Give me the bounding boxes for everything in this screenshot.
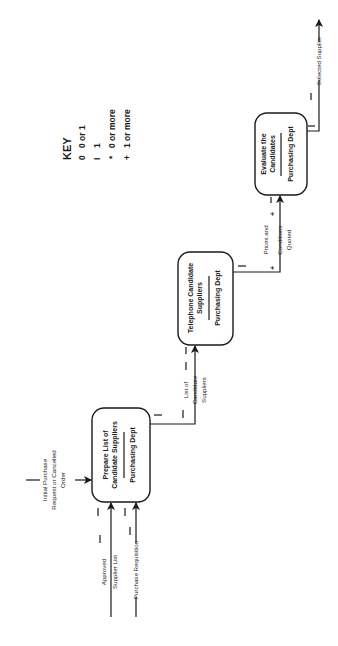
flow-label-line2: Conditions bbox=[276, 225, 283, 254]
process-dept: Purchasing Dept bbox=[287, 126, 295, 182]
process-title-line2: Candidate Suppliers bbox=[111, 421, 119, 489]
flow-label: Purchase Requisition bbox=[132, 540, 139, 599]
process-title-line1: Telephone Candidate bbox=[187, 263, 195, 333]
flow-label-line3: Suppliers bbox=[200, 377, 207, 403]
flow-label-line3: Quoted bbox=[285, 229, 292, 250]
process-telephone-suppliers[interactable]: Telephone Candidate Suppliers Purchasing… bbox=[178, 252, 233, 345]
flow-label-line2: Candidate bbox=[191, 375, 198, 404]
legend-key: KEY 0 0 or 1 I 1 * 0 or more + 1 or more bbox=[61, 109, 132, 160]
key-label-0: 0 or 1 bbox=[77, 125, 87, 148]
key-symbol-0: 0 bbox=[77, 155, 87, 160]
key-label-3: 1 or more bbox=[122, 109, 132, 148]
process-dept: Purchasing Dept bbox=[129, 427, 137, 483]
process-title-line2: Candidates bbox=[269, 135, 276, 173]
flow-approved-supplier-list: Approved Supplier List bbox=[98, 503, 118, 617]
key-symbol-3: + bbox=[122, 155, 132, 160]
flow-label-line1: List of bbox=[182, 381, 189, 398]
key-label-1: 1 bbox=[92, 143, 102, 148]
flow-prices-conditions: + + Prices and Conditions Quoted bbox=[233, 196, 292, 272]
flow-label-line1: Prices and bbox=[262, 225, 269, 255]
process-flow-diagram: KEY 0 0 or 1 I 1 * 0 or more + 1 or more… bbox=[0, 0, 338, 646]
flow-initial-purchase: Initial Purchase Request or Cancelled Or… bbox=[26, 450, 91, 510]
key-label-2: 0 or more bbox=[107, 109, 117, 148]
key-title: KEY bbox=[61, 137, 73, 160]
flow-selected-supplier: Selected Supplier bbox=[307, 20, 322, 131]
flow-label-line1: Approved bbox=[100, 558, 107, 585]
process-title-line2: Suppliers bbox=[196, 282, 204, 314]
process-evaluate-candidates[interactable]: Evaluate the Candidates Purchasing Dept bbox=[255, 113, 307, 195]
arrow-up-icon bbox=[233, 196, 280, 272]
process-dept: Purchasing Dept bbox=[214, 270, 222, 326]
flow-line bbox=[307, 80, 319, 131]
flow-label-line2: Request or Cancelled bbox=[50, 450, 57, 510]
cardinality-many-mark: + bbox=[269, 266, 276, 270]
flow-label-line3: Order bbox=[59, 472, 66, 488]
flow-label-line1: Initial Purchase bbox=[41, 458, 48, 501]
key-symbol-1: I bbox=[92, 158, 102, 160]
process-title-line1: Prepare List of bbox=[102, 430, 110, 480]
flow-label-line2: Supplier List bbox=[111, 555, 118, 589]
process-box[interactable] bbox=[92, 408, 150, 502]
flow-label: Selected Supplier bbox=[315, 37, 322, 86]
cardinality-many-mark: + bbox=[269, 212, 276, 216]
process-title-line1: Evaluate the bbox=[260, 133, 267, 174]
process-prepare-list[interactable]: Prepare List of Candidate Suppliers Purc… bbox=[92, 408, 150, 502]
flow-purchase-requisition: Purchase Requisition bbox=[125, 503, 139, 617]
key-symbol-2: * bbox=[107, 155, 117, 159]
flow-candidate-suppliers: List of Candidate Suppliers bbox=[150, 346, 207, 424]
